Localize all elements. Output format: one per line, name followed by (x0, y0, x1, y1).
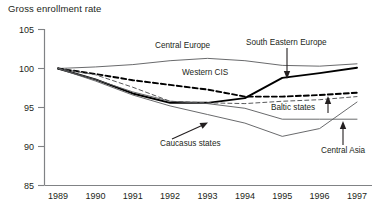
y-tick-label-100: 100 (19, 64, 34, 74)
x-tick-label-1989: 1989 (48, 191, 68, 201)
x-tick-label-1997: 1997 (347, 191, 367, 201)
x-tick-label-1994: 1994 (235, 191, 255, 201)
y-tick-label-90: 90 (24, 142, 34, 152)
x-tick-label-1995: 1995 (272, 191, 292, 201)
y-tick-label-95: 95 (24, 103, 34, 113)
label-south-eastern-europe: South Eastern Europe (246, 38, 327, 47)
arrow-south-eastern-europe (284, 48, 290, 79)
x-tick-label-1993: 1993 (197, 191, 217, 201)
label-caucasus-states: Caucasus states (160, 139, 221, 148)
chart-svg: 105 100 95 90 85 1989 1990 1991 1992 199… (0, 0, 379, 221)
arrow-caucasus-states (172, 123, 208, 140)
arrow-central-asia (340, 121, 346, 145)
label-western-cis: Western CIS (182, 68, 229, 77)
arrow-baltic-states (325, 96, 331, 113)
label-central-europe: Central Europe (155, 41, 211, 50)
x-tick-label-1992: 1992 (160, 191, 180, 201)
y-tick-label-85: 85 (24, 181, 34, 191)
y-tick-label-105: 105 (19, 25, 34, 35)
label-central-asia: Central Asia (321, 146, 366, 155)
axis-group: 105 100 95 90 85 1989 1990 1991 1992 199… (19, 25, 372, 202)
x-tick-label-1996: 1996 (310, 191, 330, 201)
chart-container: Gross enrollment rate 105 100 95 90 85 1… (0, 0, 379, 221)
series-line-central-europe (58, 58, 357, 68)
x-tick-label-1990: 1990 (85, 191, 105, 201)
label-baltic-states: Baltic states (271, 103, 315, 112)
x-tick-label-1991: 1991 (123, 191, 143, 201)
y-tick-marks (38, 30, 45, 186)
